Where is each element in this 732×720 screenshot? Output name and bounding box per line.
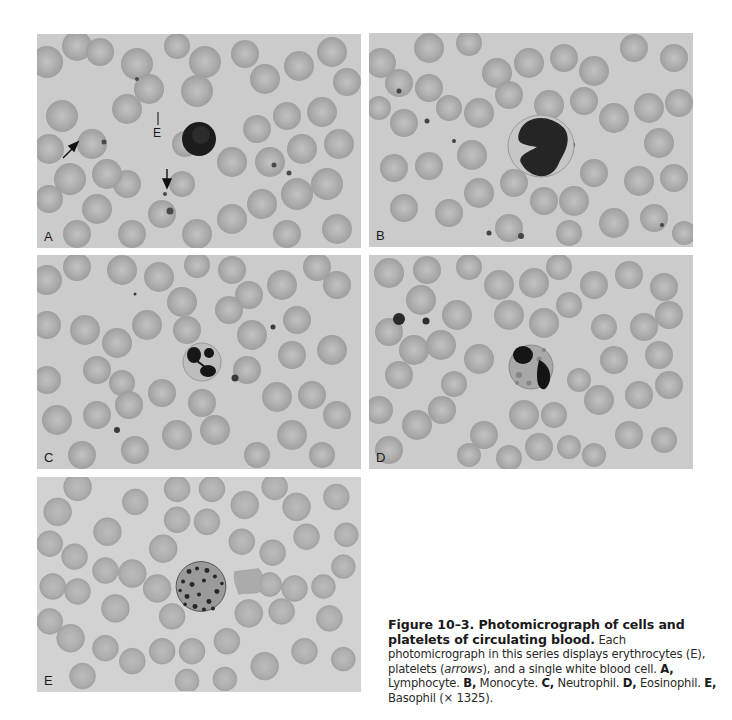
caption-item-b: Monocyte. — [476, 676, 541, 690]
figure-title: Figure 10–3. Photomicrograph of cells an… — [388, 617, 685, 647]
photomicrograph-panel-e: E — [37, 477, 361, 692]
neutrophil-micrograph — [37, 255, 361, 469]
panel-label-a: A — [44, 229, 53, 244]
panel-label-d: D — [376, 450, 385, 465]
caption-item-label-d: D, — [623, 676, 637, 690]
eosinophil-micrograph — [369, 255, 693, 469]
panel-label-b: B — [376, 228, 385, 243]
caption-item-label-e: E, — [704, 676, 716, 690]
photomicrograph-panel-b: B — [369, 33, 693, 247]
panel-label-c: C — [44, 450, 53, 465]
caption-item-label-c: C, — [541, 676, 554, 690]
lymphocyte-micrograph — [37, 34, 361, 248]
photomicrograph-panel-a: E A — [37, 34, 361, 248]
caption-item-d: Eosinophil. — [636, 676, 704, 690]
caption-item-c: Neutrophil. — [554, 676, 623, 690]
photomicrograph-panel-c: C — [37, 255, 361, 469]
caption-item-label-a: A, — [660, 662, 673, 676]
basophil-micrograph — [37, 477, 361, 691]
figure-caption: Figure 10–3. Photomicrograph of cells an… — [388, 618, 718, 706]
panel-label-e: E — [44, 673, 53, 688]
caption-arrows: arrows — [444, 662, 482, 676]
erythrocyte-annotation: E — [153, 126, 161, 140]
photomicrograph-panel-d: D — [369, 255, 693, 469]
monocyte-micrograph — [369, 33, 693, 247]
caption-item-a: Lymphocyte. — [388, 676, 463, 690]
caption-item-label-b: B, — [463, 676, 476, 690]
caption-item-e: Basophil (× 1325). — [388, 691, 493, 705]
